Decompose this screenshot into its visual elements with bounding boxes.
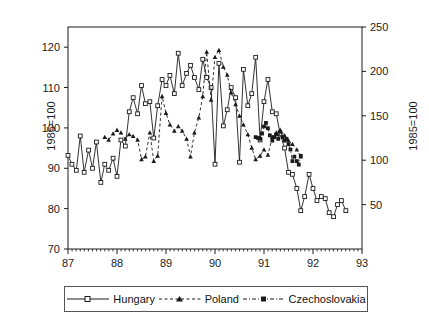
x-tick-label: 89 bbox=[160, 257, 172, 269]
y-tick-label-left: 110 bbox=[42, 82, 60, 94]
y-tick-label-left: 100 bbox=[42, 122, 60, 134]
x-axis: 87888990919293 bbox=[62, 249, 368, 269]
x-tick-label: 87 bbox=[62, 257, 74, 269]
y-axis-left: 708090100110120 bbox=[42, 41, 68, 255]
y-tick-label-right: 200 bbox=[370, 65, 388, 77]
legend-item-poland[interactable]: Poland bbox=[158, 293, 239, 305]
legend-swatch-hungary bbox=[66, 293, 110, 305]
y-tick-label-right: 250 bbox=[370, 21, 388, 33]
y-tick-label-right: 50 bbox=[370, 199, 382, 211]
y-axis-right: 50100150200250 bbox=[362, 21, 388, 211]
y-tick-label-left: 120 bbox=[42, 41, 60, 53]
legend-swatch-poland bbox=[158, 293, 202, 305]
x-tick-label: 90 bbox=[209, 257, 221, 269]
y-tick-label-left: 80 bbox=[48, 203, 60, 215]
x-tick-label: 92 bbox=[307, 257, 319, 269]
y-tick-label-left: 70 bbox=[48, 243, 60, 255]
legend-item-hungary[interactable]: Hungary bbox=[66, 293, 155, 305]
chart-plot-area: 87888990919293 708090100110120 501001502… bbox=[0, 0, 429, 320]
legend-item-czechoslovakia[interactable]: Czechoslovakia bbox=[242, 293, 366, 305]
x-tick-label: 91 bbox=[258, 257, 270, 269]
chart-legend: Hungary Poland Czechoslovakia bbox=[64, 286, 368, 312]
legend-label-poland: Poland bbox=[205, 293, 239, 305]
legend-label-hungary: Hungary bbox=[113, 293, 155, 305]
chart-figure: 1985=100 1985=100 87888990919293 7080901… bbox=[0, 0, 429, 320]
plot-frame bbox=[68, 27, 362, 249]
legend-label-czechoslovakia: Czechoslovakia bbox=[289, 293, 366, 305]
series-poland bbox=[102, 48, 303, 163]
x-tick-label: 88 bbox=[111, 257, 123, 269]
x-tick-label: 93 bbox=[356, 257, 368, 269]
y-tick-label-right: 150 bbox=[370, 110, 388, 122]
series-hungary bbox=[66, 51, 348, 218]
y-tick-label-right: 100 bbox=[370, 154, 388, 166]
legend-swatch-czechoslovakia bbox=[242, 293, 286, 305]
data-series-group bbox=[66, 48, 348, 219]
y-tick-label-left: 90 bbox=[48, 162, 60, 174]
